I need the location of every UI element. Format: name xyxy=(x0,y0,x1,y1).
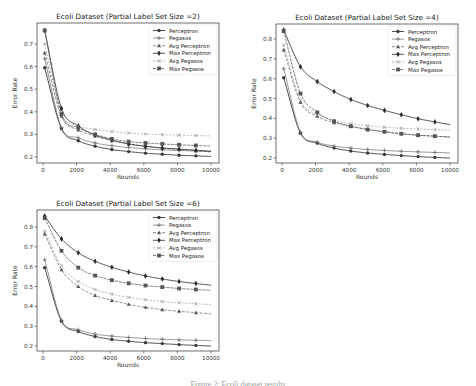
legend-entry: Max Perceptron xyxy=(408,51,450,58)
legend-entry: Pegasos xyxy=(169,222,191,229)
chart-size-2: Ecoli Dataset (Partial Label Set Size =2… xyxy=(0,0,238,190)
y-tick-label: 0.7 xyxy=(24,41,33,47)
x-axis-label: Rounds xyxy=(356,173,378,180)
y-tick-label: 0.8 xyxy=(24,224,33,230)
y-axis-label: Error Rate xyxy=(11,78,18,109)
y-tick-label: 0.6 xyxy=(24,264,33,270)
legend: PerceptronPegasosAvg PerceptronMax Perce… xyxy=(149,25,217,75)
y-tick-label: 0.2 xyxy=(24,154,33,160)
y-tick-label: 0.2 xyxy=(263,155,272,161)
x-tick-label: 10000 xyxy=(202,167,220,173)
chart-title: Ecoli Dataset (Partial Label Set Size =6… xyxy=(56,199,200,208)
legend-entry: Max Pegasos xyxy=(169,66,204,73)
y-tick-label: 0.2 xyxy=(24,343,33,349)
legend-entry: Avg Pegasos xyxy=(408,59,442,66)
x-tick-label: 2000 xyxy=(69,167,84,173)
x-tick-label: 0 xyxy=(41,167,45,173)
x-tick-label: 10000 xyxy=(202,355,220,361)
legend-entry: Pegasos xyxy=(169,35,191,42)
legend-entry: Avg Pegasos xyxy=(169,245,203,252)
y-tick-label: 0.6 xyxy=(263,76,272,82)
x-axis-label: Rounds xyxy=(117,173,139,180)
legend-entry: Perceptron xyxy=(408,29,437,36)
y-tick-label: 0.3 xyxy=(24,323,33,329)
legend: PerceptronPegasosAvg PerceptronMax Perce… xyxy=(388,26,456,76)
legend-entry: Avg Pegasos xyxy=(169,58,203,65)
x-tick-label: 8000 xyxy=(170,355,185,361)
y-tick-label: 0.6 xyxy=(24,64,33,70)
y-tick-label: 0.5 xyxy=(263,96,272,102)
chart-size-4: Ecoli Dataset (Partial Label Set Size =4… xyxy=(238,0,476,190)
legend-entry: Pegasos xyxy=(408,36,430,43)
x-tick-label: 2000 xyxy=(308,167,323,173)
y-axis-label: Error Rate xyxy=(250,78,257,109)
y-tick-label: 0.4 xyxy=(24,109,33,115)
figure-caption: Figure 2: Ecoli dataset results xyxy=(0,378,476,386)
y-axis-label: Error Rate xyxy=(11,265,18,296)
y-tick-label: 0.7 xyxy=(263,56,272,62)
y-tick-label: 0.3 xyxy=(24,131,33,137)
x-tick-label: 0 xyxy=(41,355,45,361)
legend-entry: Max Perceptron xyxy=(169,237,211,244)
legend-entry: Avg Perceptron xyxy=(169,230,210,237)
x-axis-label: Rounds xyxy=(117,361,139,368)
y-tick-label: 0.7 xyxy=(24,244,33,250)
x-tick-label: 4000 xyxy=(103,355,118,361)
legend-entry: Max Pegasos xyxy=(408,67,443,74)
legend-entry: Avg Perceptron xyxy=(169,43,210,50)
y-tick-label: 0.5 xyxy=(24,86,33,92)
x-tick-label: 8000 xyxy=(409,167,424,173)
legend-entry: Perceptron xyxy=(169,28,198,35)
x-tick-label: 0 xyxy=(280,167,284,173)
legend-entry: Avg Perceptron xyxy=(408,44,449,51)
x-tick-label: 2000 xyxy=(69,355,84,361)
legend-entry: Max Pegasos xyxy=(169,253,204,260)
legend: PerceptronPegasosAvg PerceptronMax Perce… xyxy=(149,212,217,262)
y-tick-label: 0.8 xyxy=(263,36,272,42)
chart-size-6: Ecoli Dataset (Partial Label Set Size =6… xyxy=(0,188,238,378)
x-tick-label: 8000 xyxy=(170,167,185,173)
y-tick-label: 0.3 xyxy=(263,135,272,141)
x-tick-label: 4000 xyxy=(342,167,357,173)
legend-entry: Perceptron xyxy=(169,215,198,222)
y-tick-label: 0.4 xyxy=(263,115,272,121)
x-tick-label: 10000 xyxy=(441,167,459,173)
y-tick-label: 0.4 xyxy=(24,303,33,309)
legend-entry: Max Perceptron xyxy=(169,50,211,57)
chart-title: Ecoli Dataset (Partial Label Set Size =4… xyxy=(295,13,439,22)
chart-title: Ecoli Dataset (Partial Label Set Size =2… xyxy=(56,12,200,21)
x-tick-label: 4000 xyxy=(103,167,118,173)
y-tick-label: 0.5 xyxy=(24,284,33,290)
